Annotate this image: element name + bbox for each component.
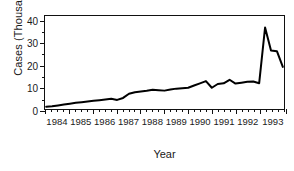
x-minor-tick bbox=[81, 109, 82, 112]
y-tick-label-0: 0 bbox=[32, 106, 38, 117]
x-minor-tick bbox=[242, 109, 243, 112]
x-year-boundary-tick bbox=[212, 109, 213, 114]
x-year-boundary-tick bbox=[93, 109, 94, 114]
x-minor-tick bbox=[218, 109, 219, 112]
y-tick-20 bbox=[40, 66, 45, 67]
x-minor-tick bbox=[123, 109, 124, 112]
x-tick-label-1991: 1991 bbox=[213, 116, 234, 127]
x-minor-tick bbox=[146, 109, 147, 112]
x-minor-tick bbox=[284, 109, 285, 112]
x-minor-tick bbox=[134, 109, 135, 112]
x-year-boundary-tick bbox=[45, 109, 46, 114]
x-tick-label-1984: 1984 bbox=[46, 116, 67, 127]
y-minor-tick bbox=[42, 32, 45, 33]
y-tick-40 bbox=[40, 21, 45, 22]
y-tick-label-10: 10 bbox=[27, 83, 38, 94]
y-tick-label-30: 30 bbox=[27, 38, 38, 49]
x-minor-tick bbox=[87, 109, 88, 112]
y-tick-10 bbox=[40, 88, 45, 89]
x-minor-tick bbox=[206, 109, 207, 112]
x-minor-tick bbox=[200, 109, 201, 112]
x-minor-tick bbox=[272, 109, 273, 112]
y-tick-label-20: 20 bbox=[27, 60, 38, 71]
x-tick-label-1988: 1988 bbox=[142, 116, 163, 127]
y-tick-30 bbox=[40, 43, 45, 44]
x-minor-tick bbox=[129, 109, 130, 112]
y-minor-tick bbox=[42, 77, 45, 78]
x-minor-tick bbox=[248, 109, 249, 112]
x-tick-label-1985: 1985 bbox=[70, 116, 91, 127]
x-tick-label-1990: 1990 bbox=[190, 116, 211, 127]
x-year-boundary-tick bbox=[260, 109, 261, 114]
x-minor-tick bbox=[170, 109, 171, 112]
x-minor-tick bbox=[224, 109, 225, 112]
data-line-layer bbox=[45, 16, 284, 109]
x-minor-tick bbox=[266, 109, 267, 112]
x-minor-tick bbox=[57, 109, 58, 112]
x-year-boundary-tick bbox=[140, 109, 141, 114]
x-year-boundary-tick bbox=[286, 109, 287, 114]
y-axis-label: Cases (Thousands) bbox=[12, 0, 26, 82]
x-minor-tick bbox=[254, 109, 255, 112]
x-minor-tick bbox=[176, 109, 177, 112]
x-minor-tick bbox=[105, 109, 106, 112]
x-year-boundary-tick bbox=[188, 109, 189, 114]
plot-area: 0102030401984198519861987198819891990199… bbox=[44, 15, 285, 110]
x-tick-label-1986: 1986 bbox=[94, 116, 115, 127]
chart-figure: Cases (Thousands) 0102030401984198519861… bbox=[0, 0, 294, 171]
x-minor-tick bbox=[278, 109, 279, 112]
x-tick-label-1993: 1993 bbox=[262, 116, 283, 127]
y-minor-tick bbox=[42, 100, 45, 101]
x-year-boundary-tick bbox=[69, 109, 70, 114]
x-minor-tick bbox=[75, 109, 76, 112]
x-tick-label-1989: 1989 bbox=[166, 116, 187, 127]
x-year-boundary-tick bbox=[117, 109, 118, 114]
x-minor-tick bbox=[111, 109, 112, 112]
x-tick-label-1992: 1992 bbox=[237, 116, 258, 127]
y-minor-tick bbox=[42, 54, 45, 55]
x-year-boundary-tick bbox=[164, 109, 165, 114]
cases-line bbox=[46, 28, 283, 107]
x-minor-tick bbox=[152, 109, 153, 112]
x-minor-tick bbox=[182, 109, 183, 112]
x-tick-label-1987: 1987 bbox=[118, 116, 139, 127]
x-axis-label: Year bbox=[44, 148, 285, 160]
x-minor-tick bbox=[63, 109, 64, 112]
x-year-boundary-tick bbox=[236, 109, 237, 114]
x-minor-tick bbox=[158, 109, 159, 112]
y-tick-label-40: 40 bbox=[27, 15, 38, 26]
x-minor-tick bbox=[230, 109, 231, 112]
x-minor-tick bbox=[99, 109, 100, 112]
x-minor-tick bbox=[51, 109, 52, 112]
x-minor-tick bbox=[194, 109, 195, 112]
